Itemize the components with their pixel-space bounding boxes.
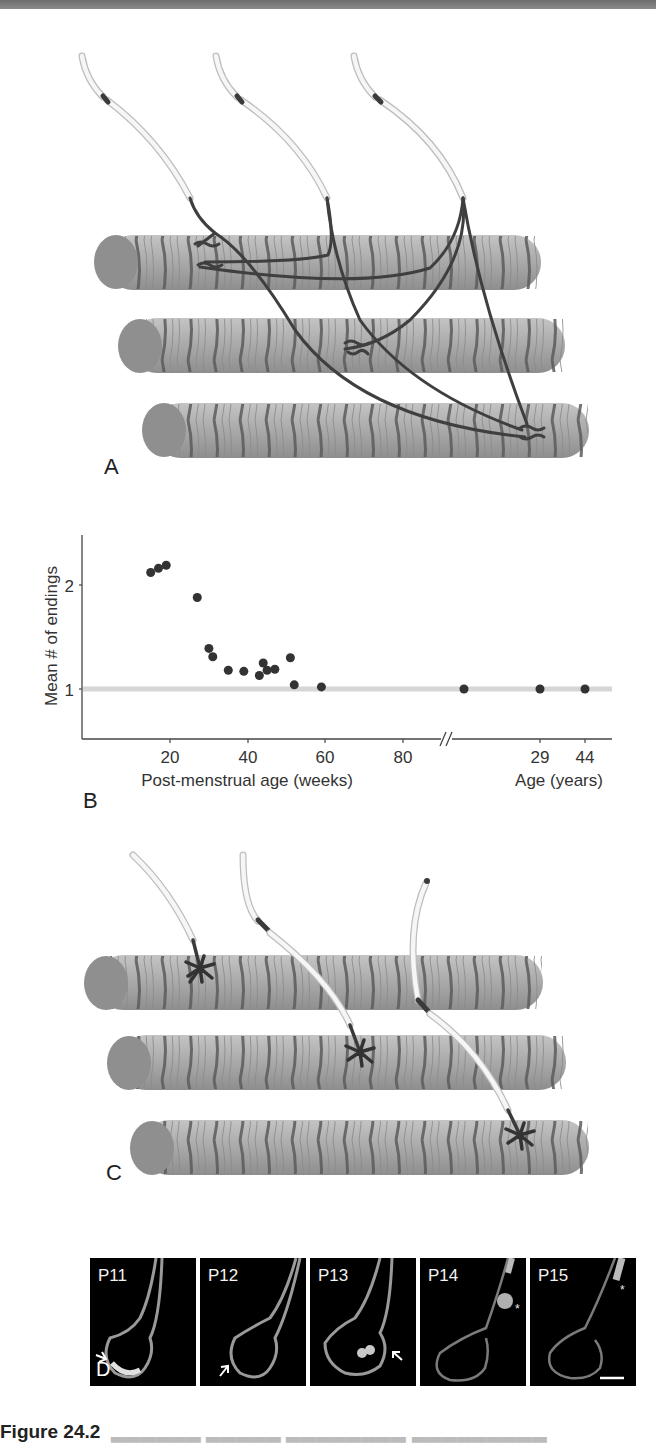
arrow-icon [393, 1352, 402, 1360]
muscle-fiber-top [94, 235, 541, 290]
data-point [154, 564, 163, 573]
figure-caption-text: ▂▂▂▂▂▂ ▂▂▂▂▂ ▂▂▂▂▂▂▂▂ ▂▂▂▂▂▂▂▂▂ [106, 1421, 547, 1442]
data-point [146, 568, 155, 577]
panel-a-polyneuronal-diagram: A [0, 40, 656, 490]
micrograph-frame-p15: * P15 [530, 1258, 636, 1386]
x-tick-20: 20 [161, 748, 180, 767]
asterisk-marker: * [620, 1283, 625, 1297]
data-point [290, 680, 299, 689]
data-point [224, 666, 233, 675]
asterisk-marker: * [515, 1302, 520, 1316]
data-point [239, 667, 248, 676]
x-axis-label-years: Age (years) [515, 771, 603, 790]
polyneuronal-innervation-illustration [0, 40, 656, 490]
figure-caption: Figure 24.2 ▂▂▂▂▂▂ ▂▂▂▂▂ ▂▂▂▂▂▂▂▂ ▂▂▂▂▂▂… [0, 1420, 656, 1449]
data-point [270, 665, 279, 674]
micrograph-frame-p13: P13 [310, 1258, 416, 1386]
data-point [255, 671, 264, 680]
y-tick-2: 2 [65, 577, 74, 596]
micrograph-frame-p11: P11 D [90, 1258, 196, 1386]
myelinated-axons [82, 56, 463, 198]
figure-number: Figure 24.2 [0, 1421, 100, 1442]
x-tick-40: 40 [239, 748, 258, 767]
mean-endings-scatter-plot: 2 1 Mean # of endings 20 40 60 80 29 44 … [0, 520, 656, 820]
panel-c-mono-innervation-diagram: C [0, 840, 656, 1220]
frame-label: P13 [318, 1266, 348, 1286]
frame-label: P11 [98, 1266, 127, 1286]
muscle-fiber-top [84, 955, 543, 1010]
data-point [208, 652, 217, 661]
axis-break-icon [440, 732, 452, 746]
y-axis-label: Mean # of endings [42, 566, 61, 706]
retracting-axon-bulb [424, 878, 430, 884]
frame-label: P14 [428, 1266, 458, 1286]
panel-label-a: A [104, 454, 119, 480]
data-point [317, 682, 326, 691]
micrograph-frame-p14: * P14 [420, 1258, 526, 1386]
data-point [162, 561, 171, 570]
data-point [204, 644, 213, 653]
panel-label-b: B [83, 788, 98, 814]
x-tick-80: 80 [394, 748, 413, 767]
data-point [460, 685, 469, 694]
data-point [193, 593, 202, 602]
y-tick-1: 1 [65, 681, 74, 700]
data-point [581, 685, 590, 694]
micrograph-frame-p12: P12 [200, 1258, 306, 1386]
x-tick-29: 29 [531, 748, 550, 767]
panel-label-d: D [96, 1358, 110, 1381]
x-tick-44: 44 [576, 748, 595, 767]
arrow-icon [220, 1366, 228, 1376]
x-tick-60: 60 [316, 748, 335, 767]
data-point [286, 653, 295, 662]
muscle-fiber-middle [107, 1035, 566, 1090]
mono-innervation-illustration [0, 840, 656, 1220]
data-point [536, 685, 545, 694]
panel-label-c: C [106, 1160, 122, 1186]
frame-label: P12 [208, 1266, 238, 1286]
data-points [146, 561, 589, 694]
muscle-fiber-middle [118, 318, 565, 373]
page-top-edge [0, 0, 656, 9]
frame-label: P15 [538, 1266, 568, 1286]
data-point [263, 666, 272, 675]
x-axis-label-weeks: Post-menstrual age (weeks) [141, 771, 353, 790]
panel-b-scatter-chart: 2 1 Mean # of endings 20 40 60 80 29 44 … [0, 520, 656, 820]
